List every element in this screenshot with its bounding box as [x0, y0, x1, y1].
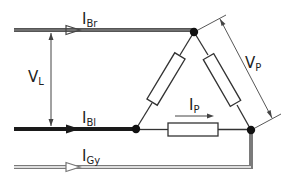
label-i-bl: IBl: [82, 109, 96, 128]
delta-branches: [136, 32, 251, 136]
resistor-right: [203, 54, 240, 107]
node-bottom-right: [247, 126, 255, 134]
label-i-gy: IGy: [82, 147, 100, 166]
current-arrow-icon: [66, 125, 80, 134]
delta-circuit-diagram: IBr IBl IGy VL VP IP: [0, 0, 289, 180]
label-i-br: IBr: [82, 10, 98, 29]
label-v-l: VL: [28, 68, 44, 87]
blue-conductor: [14, 125, 136, 134]
label-v-p: VP: [245, 54, 261, 73]
node-top: [190, 28, 198, 36]
label-i-p: IP: [189, 96, 199, 115]
resistor-left: [147, 53, 185, 105]
vl-voltage-arrow: [49, 33, 54, 126]
node-bottom-left: [132, 125, 140, 133]
brown-conductor: [14, 26, 194, 35]
current-arrow-icon: [66, 163, 80, 172]
resistor-bottom: [168, 123, 218, 136]
